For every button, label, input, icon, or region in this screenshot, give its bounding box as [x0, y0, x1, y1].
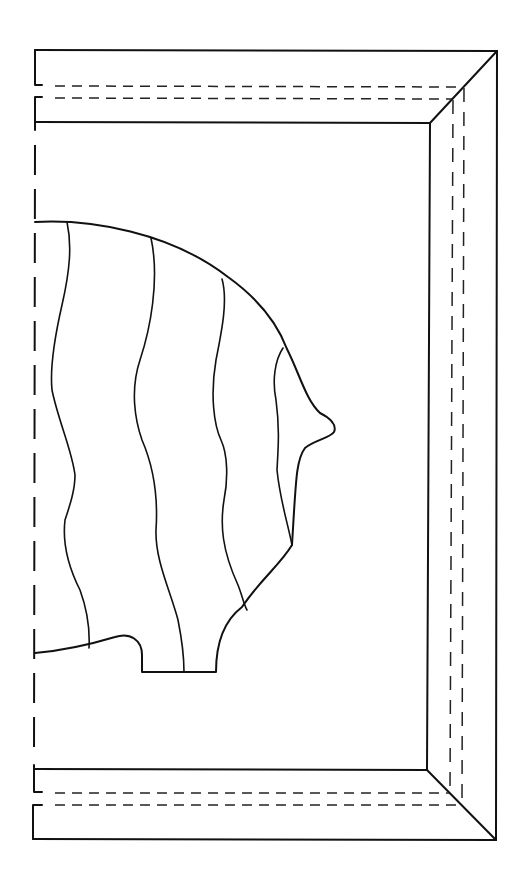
fish — [35, 222, 335, 672]
right-rabbet-line-1 — [450, 100, 453, 790]
inner-bottom-edge — [34, 769, 427, 770]
frame — [33, 50, 497, 840]
top-left-cap-upper — [35, 50, 42, 85]
top-rabbet-line-1 — [55, 86, 464, 87]
outer-right-edge — [496, 51, 497, 840]
left-fold-line — [34, 145, 35, 760]
diagram-canvas — [0, 0, 528, 881]
fish-stripe-3 — [213, 279, 247, 610]
fish-stripe-4 — [274, 348, 292, 545]
top-left-cap-lower — [35, 97, 42, 130]
outer-bottom-edge — [33, 839, 496, 840]
right-rabbet-line-2 — [462, 88, 464, 803]
inner-right-edge — [427, 123, 430, 770]
fish-stripe-2 — [134, 238, 184, 672]
fish-stripe-1 — [51, 222, 89, 648]
bottom-left-cap-lower — [33, 805, 42, 839]
fish-outline — [35, 222, 335, 672]
outer-top-edge — [35, 50, 497, 51]
top-rabbet-line-2 — [55, 98, 452, 99]
inner-top-edge — [35, 122, 430, 123]
